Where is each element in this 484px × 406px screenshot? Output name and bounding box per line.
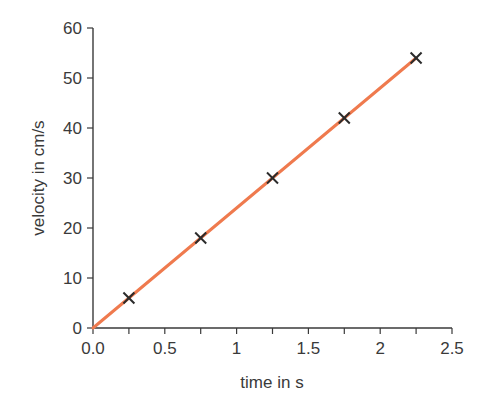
data-point-marker bbox=[339, 113, 350, 124]
x-tick-label: 0.5 bbox=[153, 339, 177, 358]
y-axis-ticks: 0102030405060 bbox=[63, 19, 93, 338]
velocity-time-chart: 0.00.511.522.5 0102030405060 time in s v… bbox=[0, 0, 484, 406]
x-axis-ticks: 0.00.511.522.5 bbox=[81, 328, 464, 358]
x-tick-label: 0.0 bbox=[81, 339, 105, 358]
y-tick-label: 50 bbox=[63, 69, 82, 88]
data-point-marker bbox=[195, 233, 206, 244]
x-tick-label: 1.5 bbox=[297, 339, 321, 358]
y-tick-label: 40 bbox=[63, 119, 82, 138]
y-tick-label: 10 bbox=[63, 269, 82, 288]
data-point-marker bbox=[123, 293, 134, 304]
x-axis-title: time in s bbox=[240, 373, 303, 392]
y-tick-label: 20 bbox=[63, 219, 82, 238]
data-point-marker bbox=[267, 173, 278, 184]
data-series bbox=[93, 53, 422, 329]
x-tick-label: 1 bbox=[232, 339, 241, 358]
x-tick-label: 2 bbox=[375, 339, 384, 358]
x-tick-label: 2.5 bbox=[440, 339, 464, 358]
y-tick-label: 60 bbox=[63, 19, 82, 38]
best-fit-line bbox=[93, 58, 416, 328]
y-tick-label: 30 bbox=[63, 169, 82, 188]
y-axis-title: velocity in cm/s bbox=[29, 120, 48, 235]
y-tick-label: 0 bbox=[73, 319, 82, 338]
data-point-marker bbox=[411, 53, 422, 64]
